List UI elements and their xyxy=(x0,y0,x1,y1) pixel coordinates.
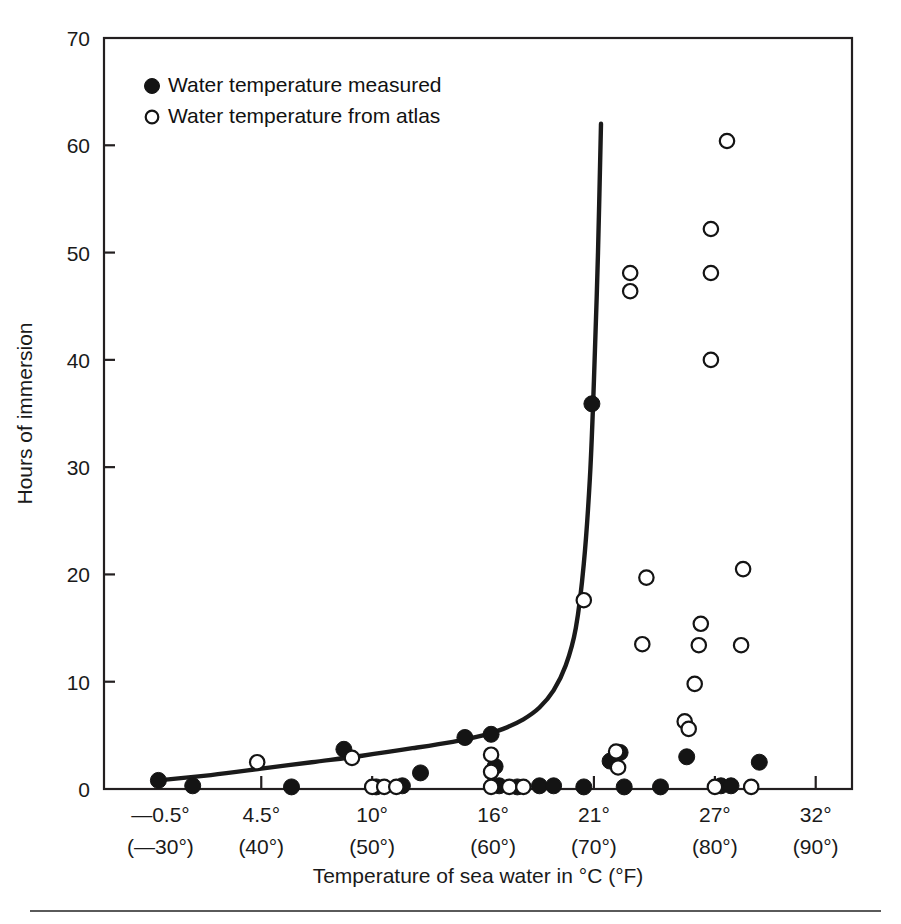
data-point-filled xyxy=(576,779,592,795)
data-point-filled xyxy=(185,778,201,794)
data-point-open xyxy=(639,570,653,584)
y-tick-label-50: 50 xyxy=(67,242,90,265)
data-point-open xyxy=(720,134,734,148)
y-axis-title: Hours of immersion xyxy=(13,322,36,504)
axis-titles: Temperature of sea water in °C (°F)Hours… xyxy=(13,322,643,887)
data-point-open xyxy=(734,638,748,652)
data-point-filled xyxy=(723,778,739,794)
y-tick-label-60: 60 xyxy=(67,134,90,157)
y-tick-label-20: 20 xyxy=(67,563,90,586)
data-point-open xyxy=(345,751,359,765)
x-tick-label-celsius: 4.5° xyxy=(242,803,280,826)
data-point-open xyxy=(484,748,498,762)
x-tick-label-fahrenheit: (—30°) xyxy=(127,835,194,858)
x-tick-label-celsius: 10° xyxy=(356,803,388,826)
data-point-filled xyxy=(679,749,695,765)
data-point-open xyxy=(516,780,530,794)
x-tick-label-celsius: 27° xyxy=(699,803,731,826)
x-tick-label-fahrenheit: (70°) xyxy=(571,835,617,858)
data-point-open xyxy=(577,593,591,607)
scatter-plot: —0.5°(—30°)4.5°(40°)10°(50°)16°(60°)21°(… xyxy=(0,0,901,924)
y-axis-ticks: 010203040506070 xyxy=(67,27,115,801)
x-tick-label-fahrenheit: (50°) xyxy=(349,835,395,858)
y-tick-label-0: 0 xyxy=(78,778,90,801)
x-tick-label-fahrenheit: (40°) xyxy=(238,835,284,858)
data-points xyxy=(150,134,767,795)
data-point-filled xyxy=(150,772,166,788)
legend: Water temperature measuredWater temperat… xyxy=(145,73,442,127)
x-tick-label-celsius: 16° xyxy=(477,803,509,826)
y-tick-label-40: 40 xyxy=(67,349,90,372)
data-point-filled xyxy=(483,726,499,742)
legend-marker-filled xyxy=(145,79,160,94)
y-tick-label-30: 30 xyxy=(67,456,90,479)
data-point-open xyxy=(611,760,625,774)
y-tick-label-70: 70 xyxy=(67,27,90,50)
data-point-open xyxy=(502,780,516,794)
figure-container: —0.5°(—30°)4.5°(40°)10°(50°)16°(60°)21°(… xyxy=(0,0,901,924)
data-point-open xyxy=(704,266,718,280)
legend-label-0: Water temperature measured xyxy=(168,73,442,96)
x-tick-label-fahrenheit: (80°) xyxy=(692,835,738,858)
trend-curve xyxy=(158,124,601,781)
data-point-open xyxy=(484,780,498,794)
data-point-open xyxy=(484,765,498,779)
data-point-open xyxy=(688,677,702,691)
data-point-open xyxy=(692,638,706,652)
data-point-open xyxy=(704,353,718,367)
x-tick-label-celsius: —0.5° xyxy=(131,803,190,826)
x-tick-label-fahrenheit: (90°) xyxy=(793,835,839,858)
data-point-filled xyxy=(653,779,669,795)
legend-label-1: Water temperature from atlas xyxy=(168,104,440,127)
data-point-filled xyxy=(584,396,600,412)
data-point-open xyxy=(704,222,718,236)
data-point-open xyxy=(682,722,696,736)
data-point-open xyxy=(250,755,264,769)
plot-border xyxy=(104,38,852,789)
legend-marker-open xyxy=(146,111,159,124)
data-point-open xyxy=(389,780,403,794)
data-point-open xyxy=(694,617,708,631)
y-tick-label-10: 10 xyxy=(67,671,90,694)
data-point-open xyxy=(744,780,758,794)
x-axis-title: Temperature of sea water in °C (°F) xyxy=(313,864,644,887)
data-point-open xyxy=(623,266,637,280)
data-point-open xyxy=(635,637,649,651)
plot-frame xyxy=(104,38,852,789)
data-point-filled xyxy=(413,765,429,781)
x-tick-label-celsius: 21° xyxy=(578,803,610,826)
data-point-filled xyxy=(284,779,300,795)
data-point-filled xyxy=(457,730,473,746)
data-point-filled xyxy=(751,754,767,770)
data-point-open xyxy=(708,780,722,794)
data-point-open xyxy=(623,284,637,298)
data-point-open xyxy=(736,562,750,576)
data-point-filled xyxy=(616,779,632,795)
x-tick-label-celsius: 32° xyxy=(800,803,832,826)
survival-curve-path xyxy=(158,124,601,781)
data-point-open xyxy=(609,744,623,758)
x-tick-label-fahrenheit: (60°) xyxy=(470,835,516,858)
data-point-filled xyxy=(546,778,562,794)
